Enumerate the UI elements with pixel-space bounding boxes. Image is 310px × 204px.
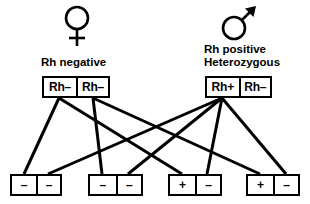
father-caption-line1: Rh positive [204,43,266,56]
captions-layer: Rh negative Rh positive Heterozygous [0,0,310,204]
mother-caption-line1: Rh negative [41,56,106,69]
father-caption-line2: Heterozygous [204,56,280,69]
rh-inheritance-diagram: Rh negative Rh positive Heterozygous Rh–… [0,0,310,204]
